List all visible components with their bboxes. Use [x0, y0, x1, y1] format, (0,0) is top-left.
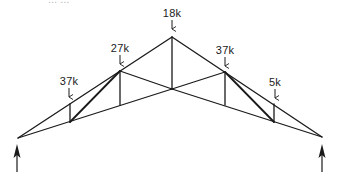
load-label: 5k [269, 76, 281, 88]
diagonal-right-outer [225, 72, 274, 122]
load-label: 27k [111, 42, 129, 54]
load-label: 18k [163, 7, 181, 19]
diagonal-left-inner [120, 71, 172, 89]
top-chord-right [172, 37, 322, 137]
load-label: 37k [60, 75, 78, 87]
reaction-arrow-left-icon [14, 144, 21, 172]
truss-diagram [0, 0, 338, 180]
top-chord-left [18, 37, 172, 138]
reaction-arrow-right-icon [319, 144, 326, 172]
bottom-chord-right [172, 89, 322, 137]
load-label: 37k [216, 44, 234, 56]
diagonal-right-inner [172, 72, 225, 89]
